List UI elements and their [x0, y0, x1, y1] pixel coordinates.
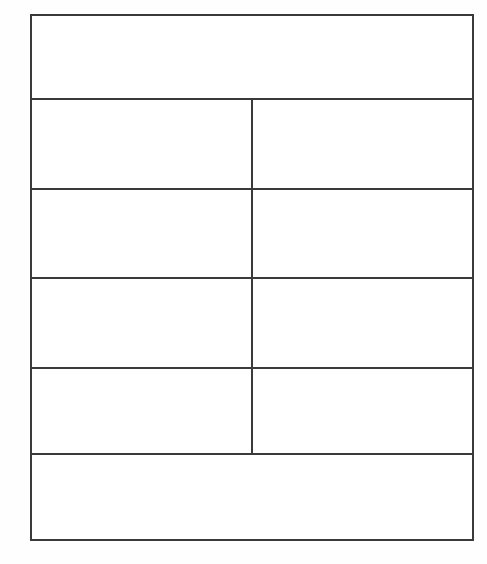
- table-body: [31, 15, 473, 540]
- table-row[interactable]: [31, 368, 473, 454]
- table-row[interactable]: [31, 189, 473, 278]
- row-2-left-cell[interactable]: [31, 189, 252, 278]
- header-cell[interactable]: [31, 15, 473, 99]
- row-4-left-cell-text: [38, 373, 245, 374]
- header-cell-text: [38, 20, 466, 21]
- table-row[interactable]: [31, 278, 473, 368]
- row-4-right-cell[interactable]: [252, 368, 473, 454]
- form-table[interactable]: [30, 14, 474, 541]
- row-1-left-cell-text: [38, 104, 245, 105]
- footer-cell[interactable]: [31, 454, 473, 540]
- table-header-row[interactable]: [31, 15, 473, 99]
- footer-cell-text: [38, 459, 466, 460]
- row-1-right-cell[interactable]: [252, 99, 473, 189]
- table-row[interactable]: [31, 99, 473, 189]
- row-2-right-cell-text: [259, 194, 466, 195]
- row-1-left-cell[interactable]: [31, 99, 252, 189]
- row-3-left-cell[interactable]: [31, 278, 252, 368]
- row-3-right-cell-text: [259, 283, 466, 284]
- row-2-left-cell-text: [38, 194, 245, 195]
- row-4-left-cell[interactable]: [31, 368, 252, 454]
- row-2-right-cell[interactable]: [252, 189, 473, 278]
- document-canvas: [0, 0, 487, 564]
- table-footer-row[interactable]: [31, 454, 473, 540]
- row-3-left-cell-text: [38, 283, 245, 284]
- row-3-right-cell[interactable]: [252, 278, 473, 368]
- row-1-right-cell-text: [259, 104, 466, 105]
- row-4-right-cell-text: [259, 373, 466, 374]
